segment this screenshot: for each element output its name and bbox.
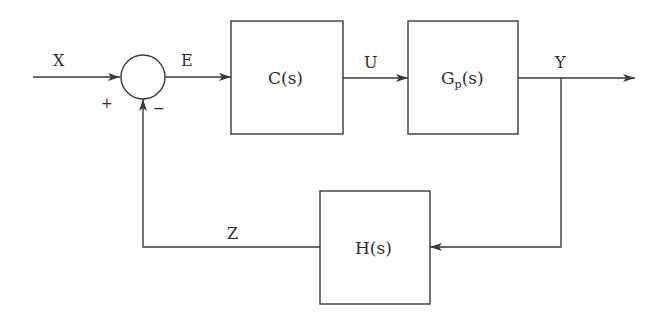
sensor-block-label: H(s) bbox=[355, 240, 392, 257]
diagram-canvas bbox=[0, 0, 662, 317]
summing-junction bbox=[121, 55, 165, 99]
error-signal-label: E bbox=[181, 53, 193, 69]
minus-sign-label: − bbox=[153, 101, 165, 115]
feedback-signal-label: Z bbox=[227, 226, 238, 242]
plant-block-label: Gp(s) bbox=[441, 70, 484, 90]
plus-sign-label: + bbox=[101, 96, 113, 110]
plant-subscript: p bbox=[455, 78, 462, 91]
plant-main-text: G bbox=[441, 68, 455, 88]
output-signal-label: Y bbox=[555, 55, 566, 71]
controller-block-label: C(s) bbox=[268, 70, 303, 87]
plant-suffix: (s) bbox=[462, 68, 484, 88]
control-signal-label: U bbox=[364, 55, 377, 71]
input-signal-label: X bbox=[53, 53, 64, 69]
